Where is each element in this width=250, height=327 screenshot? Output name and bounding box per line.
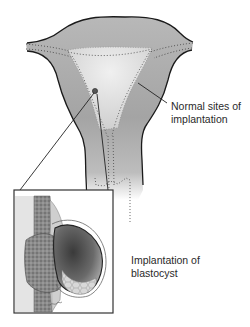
label-blastocyst-line1: Implantation of — [131, 254, 200, 267]
label-blastocyst: Implantation of blastocyst — [131, 254, 200, 279]
diagram-canvas — [0, 0, 250, 327]
label-normal-sites: Normal sites of implantation — [171, 100, 241, 125]
inset-blastocyst — [14, 190, 113, 313]
label-normal-sites-line1: Normal sites of — [171, 100, 241, 113]
label-normal-sites-line2: implantation — [171, 113, 241, 126]
label-blastocyst-line2: blastocyst — [131, 267, 200, 280]
uterus-implantation-diagram: Normal sites of implantation Implantatio… — [0, 0, 250, 327]
implantation-site-marker — [92, 88, 97, 93]
